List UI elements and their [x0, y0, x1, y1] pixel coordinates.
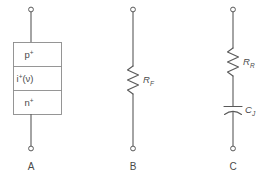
panel-a-layer-label-p: p+ [24, 49, 33, 61]
panel-a-caption: A [28, 161, 35, 172]
panel-a: p+ i+(ν) n+ A [14, 7, 62, 172]
panel-c: RR CJ C [224, 7, 256, 172]
circuit-figure: p+ i+(ν) n+ A RF B [0, 0, 266, 180]
panel-b-top-terminal [131, 7, 136, 12]
panel-c-resistor-symbol [228, 48, 239, 76]
panel-b: RF B [128, 7, 155, 172]
panel-a-top-terminal [29, 7, 34, 12]
panel-b-resistor-label: RF [143, 74, 155, 87]
panel-c-top-terminal [231, 7, 236, 12]
panel-b-caption: B [130, 161, 137, 172]
panel-b-bottom-terminal [131, 146, 136, 151]
panel-c-capacitor-label: CJ [245, 104, 256, 117]
panel-c-caption: C [229, 161, 236, 172]
panel-a-layer-label-n: n+ [24, 97, 33, 109]
panel-c-bottom-terminal [231, 146, 236, 151]
panel-a-layer-label-i: i+(ν) [17, 73, 34, 85]
panel-c-resistor-label: RR [243, 56, 255, 69]
panel-b-resistor-symbol [128, 66, 139, 94]
panel-a-bottom-terminal [29, 146, 34, 151]
